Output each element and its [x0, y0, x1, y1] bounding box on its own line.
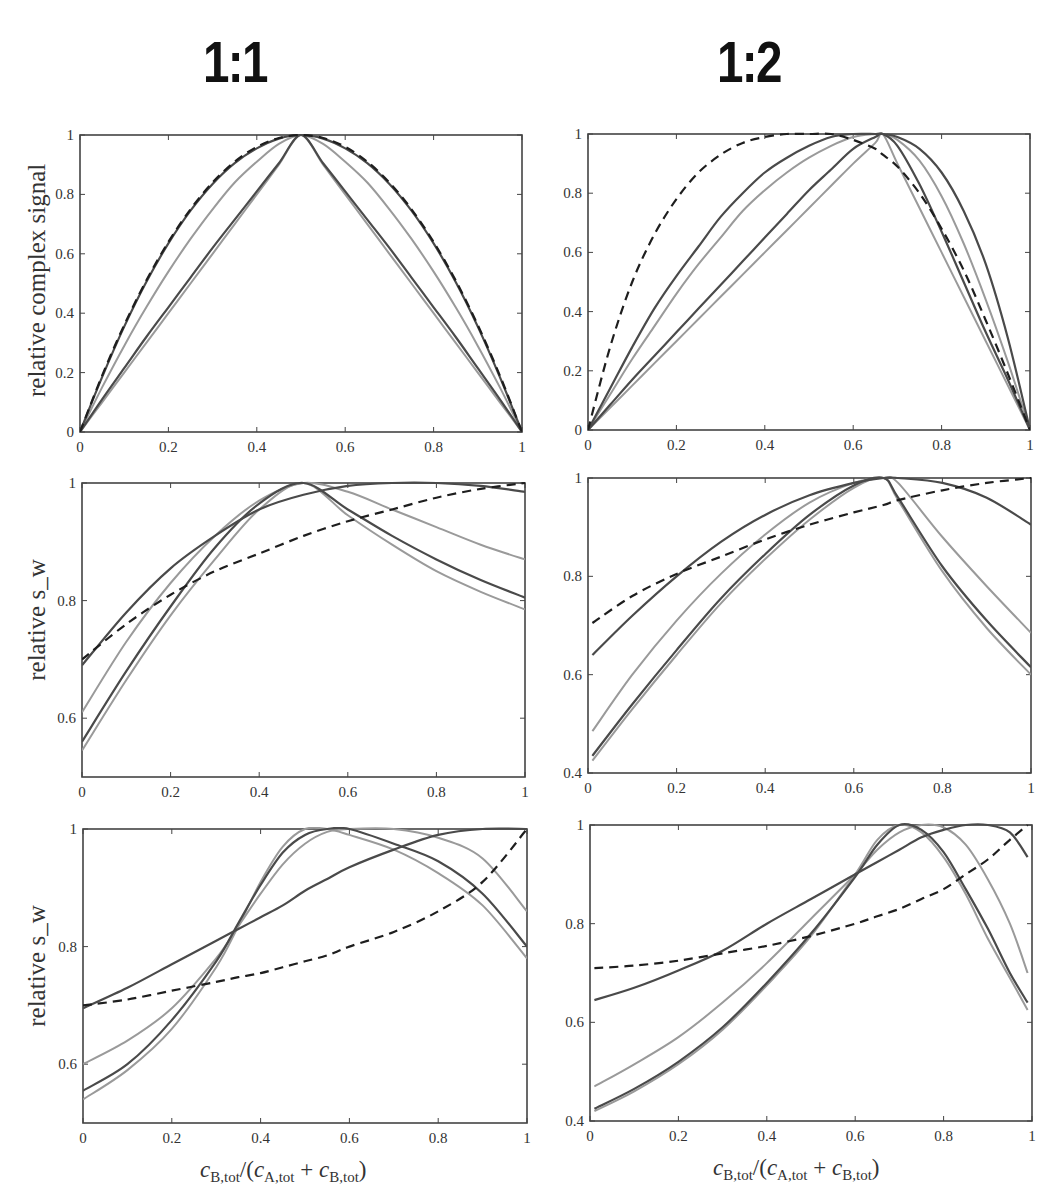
panel-bottom-left: 00.20.40.60.810.60.81	[58, 821, 531, 1146]
plot-frame	[588, 478, 1031, 773]
panel-bottom-right: 00.20.40.60.810.40.60.81	[565, 817, 1036, 1144]
x-tick-label: 0.4	[247, 439, 266, 455]
ylabel-row-2: relative s_w	[23, 550, 51, 690]
y-tick-label: 0.4	[565, 1113, 584, 1129]
panel-top-right: 00.20.40.60.8100.20.40.60.81	[563, 126, 1034, 453]
x-tick-label: 0	[586, 1128, 594, 1144]
y-tick-label: 0.4	[55, 305, 74, 321]
x-tick-label: 0.4	[250, 784, 269, 800]
xlabel-sub: A,tot	[264, 1169, 294, 1185]
x-tick-label: 0.8	[424, 439, 443, 455]
x-tick-label: 1	[1028, 1128, 1036, 1144]
x-tick-label: 0.8	[934, 1128, 953, 1144]
x-tick-label: 0.6	[340, 1130, 359, 1146]
y-tick-label: 0.6	[563, 667, 582, 683]
xlabel-end: )	[872, 1155, 880, 1180]
y-tick-label: 0.2	[55, 365, 74, 381]
x-tick-label: 0.2	[667, 780, 686, 796]
x-tick-label: 0	[584, 780, 592, 796]
y-tick-label: 1	[70, 821, 78, 837]
y-tick-label: 0.8	[565, 916, 584, 932]
xlabel-left: cB,tot/(cA,tot + cB,tot)	[200, 1157, 366, 1186]
y-tick-label: 1	[69, 475, 77, 491]
x-tick-label: 0.6	[846, 1128, 865, 1144]
x-tick-label: 0.4	[756, 780, 775, 796]
xlabel-sub: B,tot	[329, 1169, 359, 1185]
x-tick-label: 0.2	[159, 439, 178, 455]
y-tick-label: 0.8	[563, 185, 582, 201]
y-tick-label: 1	[575, 470, 583, 486]
y-tick-label: 0.8	[57, 593, 76, 609]
x-tick-label: 1	[523, 1130, 531, 1146]
xlabel-sub: B,tot	[842, 1167, 872, 1183]
xlabel-c: c	[200, 1157, 210, 1182]
xlabel-c: c	[767, 1155, 777, 1180]
xlabel-plus: +	[808, 1155, 832, 1180]
y-tick-label: 0.6	[58, 1056, 77, 1072]
panel-middle-right: 00.20.40.60.810.40.60.81	[563, 470, 1035, 796]
x-tick-label: 1	[1027, 780, 1035, 796]
x-tick-label: 0.4	[757, 1128, 776, 1144]
y-tick-label: 0.8	[563, 568, 582, 584]
x-tick-label: 0.2	[162, 1130, 181, 1146]
xlabel-end: )	[359, 1157, 367, 1182]
x-tick-label: 0.6	[336, 439, 355, 455]
x-tick-label: 0.6	[844, 780, 863, 796]
plot-frame	[82, 483, 525, 777]
xlabel-right: cB,tot/(cA,tot + cB,tot)	[713, 1155, 879, 1184]
y-tick-label: 0.8	[58, 939, 77, 955]
y-tick-label: 0.6	[55, 246, 74, 262]
xlabel-c: c	[713, 1155, 723, 1180]
y-tick-label: 0.8	[55, 186, 74, 202]
y-tick-label: 0.4	[563, 304, 582, 320]
xlabel-sub: B,tot	[210, 1169, 240, 1185]
x-tick-label: 0.2	[669, 1128, 688, 1144]
y-tick-label: 0	[67, 424, 75, 440]
ylabel-row-2-text: relative s_w	[23, 559, 50, 680]
xlabel-c: c	[254, 1157, 264, 1182]
y-tick-label: 1	[575, 126, 583, 142]
y-tick-label: 1	[67, 127, 75, 143]
figure-canvas: 00.20.40.60.8100.20.40.60.8100.20.40.60.…	[0, 0, 1050, 1199]
x-tick-label: 1	[521, 784, 529, 800]
xlabel-c: c	[319, 1157, 329, 1182]
panel-middle-left: 00.20.40.60.810.60.81	[57, 475, 529, 800]
x-tick-label: 0	[76, 439, 84, 455]
x-tick-label: 0.8	[933, 780, 952, 796]
xlabel-mid: /(	[753, 1155, 767, 1180]
ylabel-row-3: relative s_w	[23, 896, 51, 1036]
x-tick-label: 1	[518, 439, 526, 455]
x-tick-label: 0.4	[251, 1130, 270, 1146]
ylabel-row-1: relative complex signal	[23, 167, 51, 397]
y-tick-label: 0	[575, 422, 583, 438]
x-tick-label: 0	[584, 437, 592, 453]
x-tick-label: 0.8	[932, 437, 951, 453]
xlabel-plus: +	[295, 1157, 319, 1182]
x-tick-label: 0.6	[844, 437, 863, 453]
y-tick-label: 0.6	[565, 1014, 584, 1030]
xlabel-sub: A,tot	[777, 1167, 807, 1183]
xlabel-mid: /(	[240, 1157, 254, 1182]
x-tick-label: 0.8	[427, 784, 446, 800]
x-tick-label: 0	[78, 784, 86, 800]
xlabel-sub: B,tot	[723, 1167, 753, 1183]
x-tick-label: 0.4	[755, 437, 774, 453]
x-tick-label: 0.2	[161, 784, 180, 800]
x-tick-label: 0.8	[429, 1130, 448, 1146]
ylabel-row-3-text: relative s_w	[23, 905, 50, 1026]
y-tick-label: 0.6	[563, 244, 582, 260]
y-tick-label: 0.6	[57, 710, 76, 726]
x-tick-label: 1	[1026, 437, 1034, 453]
y-tick-label: 1	[577, 817, 585, 833]
y-tick-label: 0.2	[563, 363, 582, 379]
y-tick-label: 0.4	[563, 765, 582, 781]
x-tick-label: 0	[79, 1130, 87, 1146]
panel-top-left: 00.20.40.60.8100.20.40.60.81	[55, 127, 526, 455]
xlabel-c: c	[832, 1155, 842, 1180]
x-tick-label: 0.2	[667, 437, 686, 453]
x-tick-label: 0.6	[338, 784, 357, 800]
